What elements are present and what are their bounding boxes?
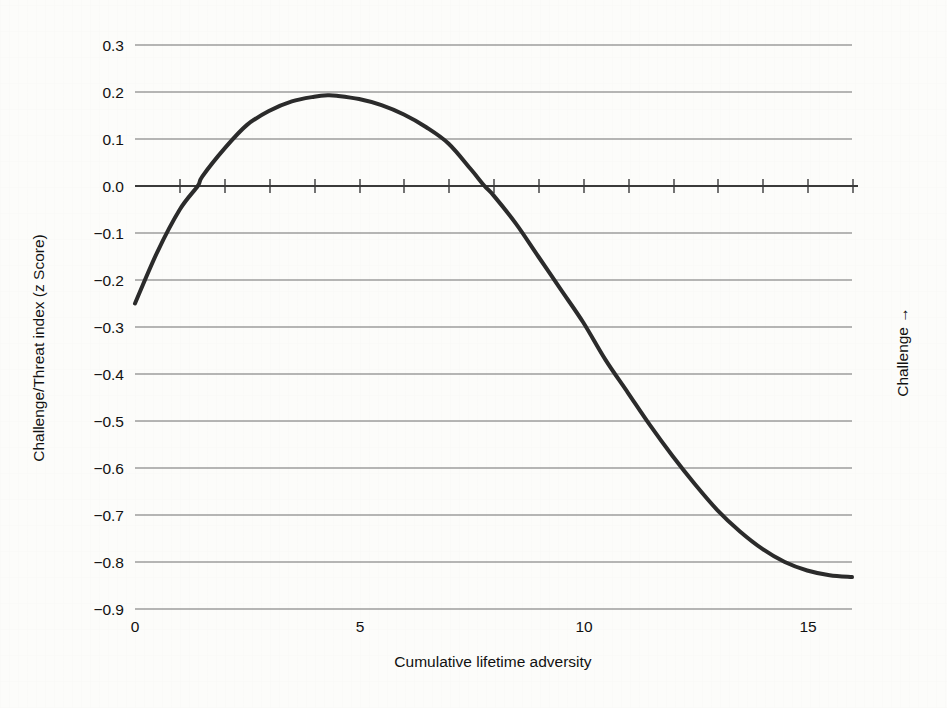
y-tick-label: −0.4 [93, 366, 124, 383]
y-tick-label: −0.7 [93, 507, 124, 524]
y-tick-label: −0.2 [93, 272, 124, 289]
y-tick-label: −0.1 [93, 225, 124, 242]
chart-page: 0.3 0.2 0.1 0.0 −0.1 −0.2 −0.3 −0.4 −0.5… [0, 0, 947, 708]
x-tick-label: 15 [799, 618, 816, 635]
y-tick-label: 0.3 [102, 37, 124, 54]
x-tick-labels-group: 0 5 10 15 [131, 618, 817, 635]
y-tick-label: 0.2 [102, 84, 124, 101]
y-tick-label: −0.3 [93, 319, 124, 336]
x-axis-label: Cumulative lifetime adversity [394, 653, 592, 670]
y-tick-labels-group: 0.3 0.2 0.1 0.0 −0.1 −0.2 −0.3 −0.4 −0.5… [93, 37, 124, 618]
x-tick-label: 10 [575, 618, 593, 635]
data-series-line [135, 95, 852, 577]
y-tick-label: −0.6 [93, 460, 124, 477]
right-axis-label: Challenge → [894, 307, 911, 397]
y-axis-label: Challenge/Threat index (z Score) [30, 234, 47, 461]
chart-figure: 0.3 0.2 0.1 0.0 −0.1 −0.2 −0.3 −0.4 −0.5… [0, 0, 947, 708]
y-tick-label: 0.0 [102, 178, 124, 195]
y-tick-label: 0.1 [102, 131, 124, 148]
x-tick-label: 5 [356, 618, 365, 635]
x-tick-label: 0 [131, 618, 140, 635]
y-tick-label: −0.8 [93, 554, 124, 571]
y-tick-label: −0.5 [93, 413, 124, 430]
y-tick-label: −0.9 [93, 601, 124, 618]
